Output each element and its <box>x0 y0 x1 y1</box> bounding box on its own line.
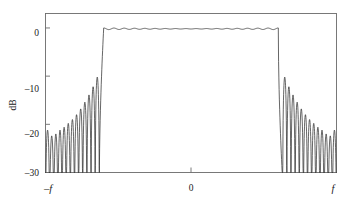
frequency-response-curve <box>46 28 337 173</box>
x-tick-label-center: 0 <box>189 183 194 193</box>
x-tick-label-right: f <box>332 183 337 194</box>
x-tick-label-left: –f <box>43 183 54 194</box>
y-axis-title: dB <box>8 99 18 110</box>
y-tick-label-minus-30: –30 <box>24 168 40 178</box>
chart-canvas: 0 –10 –20 –30 dB –f 0 f <box>0 0 355 212</box>
y-tick-label-0: 0 <box>34 28 39 38</box>
y-tick-label-minus-10: –10 <box>24 84 40 94</box>
y-tick-label-minus-20: –20 <box>24 129 40 139</box>
plot-frame <box>46 14 337 173</box>
figure-container: 0 –10 –20 –30 dB –f 0 f <box>0 0 355 212</box>
